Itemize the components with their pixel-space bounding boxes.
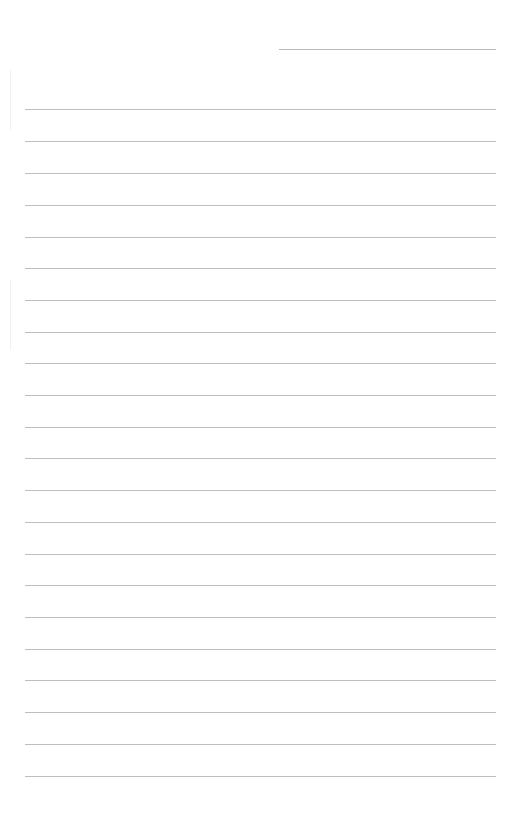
ruled-line [25, 554, 496, 555]
lined-paper-page [0, 0, 511, 816]
ruled-line [25, 268, 496, 269]
ruled-line [25, 490, 496, 491]
ruled-line [25, 458, 496, 459]
scan-margin-mark [10, 280, 11, 350]
ruled-line [25, 680, 496, 681]
ruled-line [25, 205, 496, 206]
ruled-line [25, 173, 496, 174]
ruled-line [25, 585, 496, 586]
header-name-line [279, 49, 496, 50]
ruled-line [25, 237, 496, 238]
scan-margin-mark [10, 70, 11, 130]
ruled-line [25, 744, 496, 745]
ruled-line [25, 427, 496, 428]
ruled-line [25, 617, 496, 618]
ruled-line [25, 776, 496, 777]
ruled-line [25, 712, 496, 713]
ruled-line [25, 363, 496, 364]
ruled-line [25, 395, 496, 396]
ruled-line [25, 109, 496, 110]
ruled-line [25, 649, 496, 650]
ruled-line [25, 332, 496, 333]
ruled-line [25, 300, 496, 301]
ruled-line [25, 522, 496, 523]
ruled-line [25, 141, 496, 142]
